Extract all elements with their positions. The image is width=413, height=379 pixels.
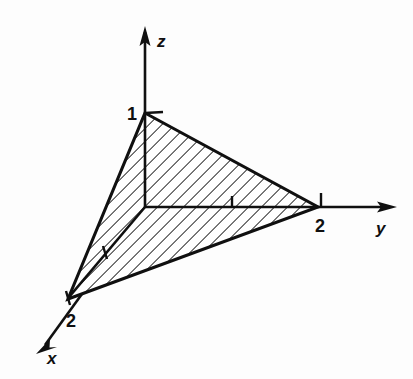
z-axis-label: z [156, 32, 166, 51]
coordinate-diagram: z y x 1 2 2 [0, 0, 413, 379]
y-axis-label: y [375, 219, 387, 238]
x-tick-2-label: 2 [66, 311, 76, 331]
figure-canvas: z y x 1 2 2 [0, 0, 413, 379]
z-tick-1-label: 1 [127, 104, 137, 124]
y-tick-2-label: 2 [315, 216, 325, 236]
z-tick-1-mark [145, 112, 163, 113]
x-axis-label: x [46, 349, 58, 368]
